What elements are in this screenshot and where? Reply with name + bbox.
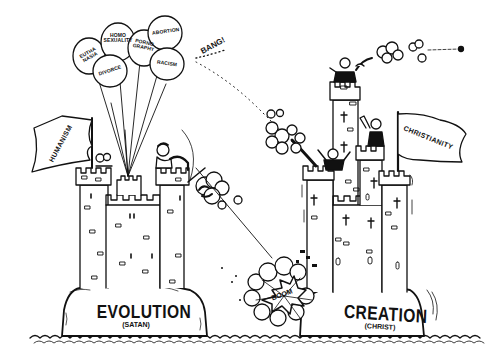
monkey-creature <box>96 154 112 167</box>
shot-trajectory <box>196 168 272 258</box>
evolution-left-tower <box>80 185 108 288</box>
creation-top-smoke <box>377 40 426 63</box>
creation-wall <box>333 205 382 292</box>
creation-rock-label: CREATION <box>344 302 417 326</box>
evolution-cannoneer <box>156 143 188 170</box>
creation-left-tower <box>307 180 333 292</box>
balloon-homosexuality-label: HOMO SEXUALITY <box>103 33 133 43</box>
evolution-smoke-cloud <box>196 172 242 209</box>
creation-cannonball <box>459 47 464 52</box>
creation-smoke-cloud <box>266 110 305 155</box>
evolution-wall <box>106 205 160 288</box>
creation-top-cannoneer <box>330 58 372 82</box>
evolution-rock-label: EVOLUTION <box>97 302 176 321</box>
creation-priest <box>360 116 384 146</box>
cartoon-illustration: EUTHA NASIA HOMO SEXUALITY PORNO GRAPHY … <box>0 0 486 360</box>
evolution-rock-sublabel: (SATAN) <box>113 321 159 328</box>
